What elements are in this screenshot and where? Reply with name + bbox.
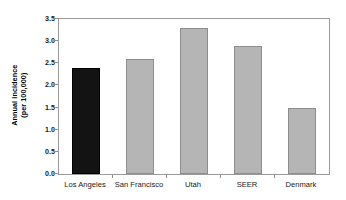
- y-axis-tick-label: 0.0: [15, 169, 55, 178]
- y-axis-tick-label: 3.0: [15, 36, 55, 45]
- bar-chart-figure: Annual incidence (per 100,000) 0.00.51.0…: [0, 0, 346, 200]
- x-axis-category-label: Los Angeles: [64, 180, 105, 189]
- y-axis-tick-label: 1.0: [15, 124, 55, 133]
- y-axis-tick-label: 0.5: [15, 146, 55, 155]
- y-axis-tick-label: 3.5: [15, 14, 55, 23]
- y-axis-title-line-1: Annual incidence: [11, 65, 20, 126]
- y-axis-title: Annual incidence (per 100,000): [0, 0, 40, 191]
- x-axis-category-label: SEER: [237, 180, 258, 189]
- x-axis-category-label: San Francisco: [115, 180, 164, 189]
- bar: [234, 46, 262, 174]
- x-axis-category-label: Utah: [185, 180, 201, 189]
- x-axis-category-label: Denmark: [286, 180, 317, 189]
- y-axis-tick-label: 2.5: [15, 58, 55, 67]
- bar: [288, 108, 316, 174]
- bar: [72, 68, 100, 174]
- bar: [180, 28, 208, 174]
- y-axis-tick-label: 1.5: [15, 102, 55, 111]
- plot-area: [58, 18, 330, 175]
- y-axis-tick-label: 2.0: [15, 80, 55, 89]
- bar: [126, 59, 154, 174]
- y-axis-title-line-2: (per 100,000): [20, 65, 29, 126]
